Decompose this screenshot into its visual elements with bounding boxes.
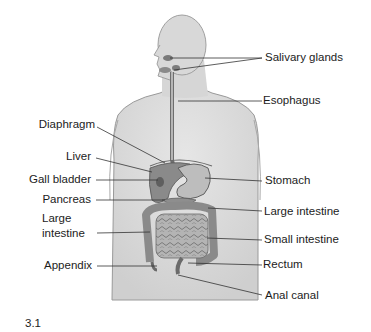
digestive-system-diagram: Salivary glands Esophagus Stomach Large …	[0, 0, 371, 332]
label-diaphragm: Diaphragm	[39, 118, 95, 131]
body-illustration	[0, 0, 371, 332]
gall-bladder-organ	[156, 177, 164, 187]
label-large-intestine-left-line1: Large	[42, 212, 71, 225]
label-rectum: Rectum	[263, 258, 303, 271]
label-small-intestine: Small intestine	[264, 233, 339, 246]
figure-number: 3.1	[25, 317, 41, 329]
label-gall-bladder: Gall bladder	[29, 173, 91, 186]
label-large-intestine-left-line2: intestine	[42, 227, 85, 240]
label-large-intestine-right: Large intestine	[264, 205, 339, 218]
label-esophagus: Esophagus	[263, 94, 321, 107]
small-intestine-organ	[156, 214, 208, 258]
label-pancreas: Pancreas	[42, 193, 91, 206]
label-appendix: Appendix	[44, 259, 92, 272]
label-anal-canal: Anal canal	[265, 289, 319, 302]
label-salivary-glands: Salivary glands	[265, 51, 343, 64]
label-liver: Liver	[66, 150, 91, 163]
label-stomach: Stomach	[265, 174, 310, 187]
